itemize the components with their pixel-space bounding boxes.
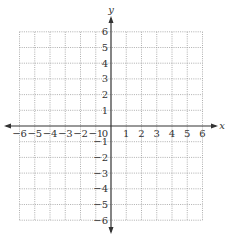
x-tick-label: −6 [12, 128, 27, 139]
x-axis-left-arrow-icon [4, 124, 11, 129]
x-tick-label: 5 [184, 128, 190, 139]
y-tick-label: −6 [93, 215, 108, 226]
y-tick-label: 2 [102, 89, 108, 100]
x-axis-right-arrow-icon [211, 124, 218, 129]
y-axis-label: y [107, 4, 114, 15]
y-tick-label: 1 [102, 105, 108, 116]
x-tick-label: 3 [154, 128, 160, 139]
axes [4, 16, 218, 234]
coordinate-plane: xy−6−5−4−3−2−1123456−6−5−4−3−2−11234560 [0, 0, 227, 240]
x-tick-label: 4 [169, 128, 175, 139]
x-tick-label: −4 [43, 128, 58, 139]
y-tick-label: 6 [102, 26, 108, 37]
y-axis-bottom-arrow-icon [109, 227, 114, 234]
x-tick-label: 1 [123, 128, 129, 139]
y-tick-label: −5 [93, 199, 108, 210]
origin-label: 0 [102, 128, 108, 139]
x-tick-label: −2 [73, 128, 88, 139]
y-tick-label: −4 [93, 183, 108, 194]
x-tick-label: 2 [138, 128, 144, 139]
x-tick-label: −5 [27, 128, 42, 139]
y-axis-top-arrow-icon [109, 16, 114, 23]
y-tick-label: 3 [102, 73, 108, 84]
y-tick-label: −3 [93, 168, 108, 179]
x-tick-label: 6 [199, 128, 205, 139]
y-tick-label: −2 [93, 152, 108, 163]
y-tick-label: 5 [102, 42, 108, 53]
tick-labels: xy−6−5−4−3−2−1123456−6−5−4−3−2−11234560 [12, 4, 225, 226]
y-tick-label: 4 [102, 58, 108, 69]
x-tick-label: −3 [58, 128, 73, 139]
x-axis-label: x [219, 120, 225, 131]
